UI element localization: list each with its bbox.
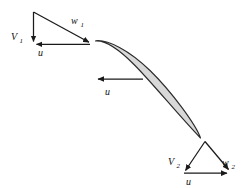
- blade-profile: [96, 41, 201, 139]
- outlet-relative-velocity-label: w 2: [222, 157, 236, 171]
- outlet-blade-speed-label: u: [186, 176, 191, 187]
- svg-text:2: 2: [232, 163, 236, 171]
- blade-speed-vector: u: [98, 79, 143, 97]
- blade-speed-label: u: [105, 86, 110, 97]
- figure-root: V 1 w 1 u u: [0, 0, 251, 188]
- velocity-triangle-diagram: V 1 w 1 u u: [0, 0, 251, 188]
- inlet-absolute-velocity-label: V 1: [11, 31, 23, 45]
- outlet-absolute-velocity-label: V 2: [168, 156, 181, 170]
- outlet-velocity-triangle: V 2 w 2 u: [168, 142, 236, 188]
- inlet-relative-velocity-label: w 1: [71, 15, 84, 29]
- svg-text:V: V: [168, 156, 176, 167]
- svg-text:V: V: [11, 31, 19, 42]
- svg-text:w: w: [222, 157, 229, 168]
- outlet-absolute-velocity-arrow: [186, 142, 206, 171]
- svg-text:1: 1: [20, 37, 24, 45]
- inlet-velocity-triangle: V 1 w 1 u: [11, 12, 90, 58]
- svg-text:w: w: [71, 15, 78, 26]
- svg-text:1: 1: [81, 21, 85, 29]
- svg-text:2: 2: [177, 162, 181, 170]
- inlet-blade-speed-label: u: [38, 47, 43, 58]
- blade-shape: [96, 41, 201, 139]
